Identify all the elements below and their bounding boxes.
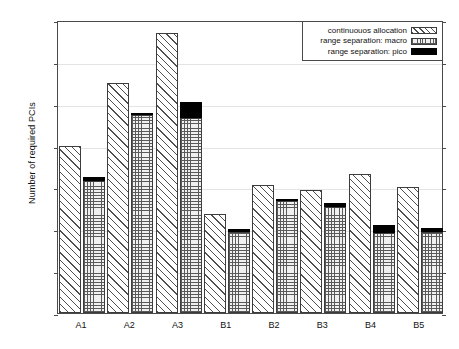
x-tick-label-b4: B4 [365, 320, 376, 330]
x-tick-label-b5: B5 [413, 320, 424, 330]
bar-continuous-b3 [300, 190, 322, 313]
bar-macro-b2 [276, 201, 298, 313]
bar-pico-a2 [131, 113, 153, 115]
y-tick-mark [54, 189, 58, 190]
legend-item: range separation: macro [307, 36, 437, 46]
y-tick-mark [442, 64, 446, 65]
bar-macro-b4 [373, 233, 395, 313]
x-tick-label-b3: B3 [317, 320, 328, 330]
bar-continuous-b1 [204, 214, 226, 313]
bar-chart: Number of required PCIs 0501001502002503… [0, 0, 459, 349]
x-tick-label-b1: B1 [220, 320, 231, 330]
x-tick-label-a3: A3 [172, 320, 183, 330]
y-tick-mark [54, 315, 58, 316]
legend-item: range separation: pico [307, 47, 437, 57]
gridline [58, 64, 442, 65]
bar-continuous-b5 [397, 187, 419, 313]
bar-pico-b5 [421, 228, 443, 232]
bar-pico-a3 [180, 102, 202, 118]
bar-macro-b5 [421, 232, 443, 313]
y-tick-mark [54, 106, 58, 107]
legend-item: continuouos allocation [307, 26, 437, 36]
y-tick-mark [442, 106, 446, 107]
bar-pico-a1 [83, 177, 105, 180]
legend-label-pico: range separation: pico [328, 47, 407, 57]
bar-macro-b1 [228, 232, 250, 313]
solid-black-swatch-icon [411, 48, 437, 55]
plot-area [57, 21, 443, 314]
bar-macro-b3 [324, 207, 346, 313]
chart-legend: continuouos allocation range separation:… [302, 21, 443, 61]
bar-macro-a1 [83, 181, 105, 313]
y-tick-mark [442, 315, 446, 316]
bar-continuous-a2 [107, 83, 129, 313]
y-tick-mark [54, 273, 58, 274]
bar-continuous-b2 [252, 185, 274, 313]
y-tick-mark [54, 231, 58, 232]
bar-macro-a3 [180, 118, 202, 313]
bar-continuous-a1 [59, 146, 81, 313]
bar-pico-b3 [324, 203, 346, 206]
y-tick-mark [442, 148, 446, 149]
y-axis-title: Number of required PCIs [27, 73, 37, 233]
y-tick-mark [54, 22, 58, 23]
legend-label-macro: range separation: macro [320, 36, 407, 46]
bar-pico-b4 [373, 225, 395, 233]
bar-macro-a2 [131, 115, 153, 313]
bar-continuous-a3 [156, 33, 178, 313]
y-tick-mark [54, 64, 58, 65]
bar-pico-b1 [228, 229, 250, 232]
bar-pico-b2 [276, 199, 298, 201]
y-tick-mark [54, 148, 58, 149]
x-tick-label-b2: B2 [269, 320, 280, 330]
crosshatch-swatch-icon [411, 38, 437, 45]
diagonal-hatch-swatch-icon [411, 27, 437, 34]
legend-label-continuous: continuouos allocation [328, 26, 407, 36]
x-tick-label-a2: A2 [124, 320, 135, 330]
y-tick-mark [442, 189, 446, 190]
bar-continuous-b4 [349, 174, 371, 313]
x-tick-label-a1: A1 [76, 320, 87, 330]
